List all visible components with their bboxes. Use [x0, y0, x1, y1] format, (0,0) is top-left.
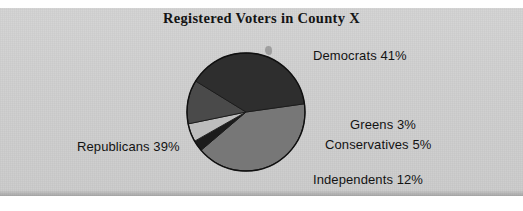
pie-slice-group: [187, 53, 305, 171]
slice-label-republicans: Republicans 39%: [77, 139, 180, 154]
pie-svg: [186, 52, 306, 172]
slice-label-conservatives: Conservatives 5%: [325, 137, 431, 152]
slice-label-democrats: Democrats 41%: [313, 48, 407, 63]
pie-chart: [186, 52, 306, 172]
chart-title: Registered Voters in County X: [0, 10, 523, 27]
slice-label-independents: Independents 12%: [313, 172, 423, 187]
slice-label-greens: Greens 3%: [350, 117, 416, 132]
pie-chart-figure: Registered Voters in County X Democrats …: [0, 0, 523, 211]
